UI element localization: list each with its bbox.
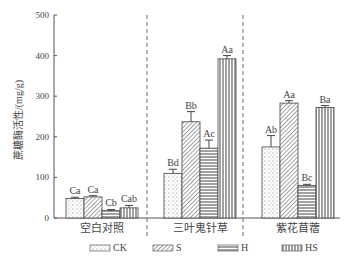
significance-label: Bc — [301, 172, 313, 183]
legend-label: S — [176, 242, 182, 253]
y-tick-label: 300 — [36, 91, 50, 101]
y-tick-label: 500 — [36, 10, 50, 20]
significance-label: Bb — [185, 100, 197, 111]
x-category-label: 三叶鬼针草 — [173, 221, 228, 234]
bar-chart: 0100200300400500蔗糖酶活性/(mg/g)CaCaCbCab空白对… — [0, 0, 361, 270]
significance-label: Ca — [69, 185, 81, 196]
significance-label: Bd — [167, 157, 179, 168]
y-axis-label: 蔗糖酶活性/(mg/g) — [12, 80, 25, 160]
significance-label: Ac — [203, 128, 215, 139]
significance-label: Aa — [283, 89, 295, 100]
significance-label: Cb — [105, 197, 117, 208]
y-tick-label: 100 — [36, 172, 50, 182]
bar-S — [280, 103, 298, 218]
legend-swatch-CK — [90, 245, 110, 251]
bar-H — [200, 148, 218, 218]
bar-S — [182, 122, 200, 218]
significance-label: Ab — [265, 124, 277, 135]
bar-HS — [316, 108, 334, 218]
legend-label: HS — [305, 242, 318, 253]
bar-S — [84, 197, 102, 218]
legend-label: H — [241, 242, 248, 253]
significance-label: Cab — [121, 193, 137, 204]
y-tick-label: 200 — [36, 132, 50, 142]
legend-swatch-H — [218, 245, 238, 251]
legend-swatch-S — [153, 245, 173, 251]
significance-label: Ca — [87, 184, 99, 195]
legend-label: CK — [113, 242, 128, 253]
bar-HS — [218, 59, 236, 218]
bar-CK — [262, 147, 280, 218]
bar-CK — [66, 199, 84, 218]
chart: 0100200300400500蔗糖酶活性/(mg/g)CaCaCbCab空白对… — [0, 0, 361, 270]
bar-H — [298, 186, 316, 218]
significance-label: Aa — [221, 44, 233, 55]
y-tick-label: 0 — [45, 213, 50, 223]
legend-swatch-HS — [282, 245, 302, 251]
bar-CK — [164, 173, 182, 218]
x-category-label: 紫花苜蓿 — [276, 221, 320, 234]
y-tick-label: 400 — [36, 51, 50, 61]
significance-label: Ba — [319, 94, 331, 105]
x-category-label: 空白对照 — [80, 221, 124, 234]
bar-H — [102, 211, 120, 218]
bar-HS — [120, 208, 138, 218]
